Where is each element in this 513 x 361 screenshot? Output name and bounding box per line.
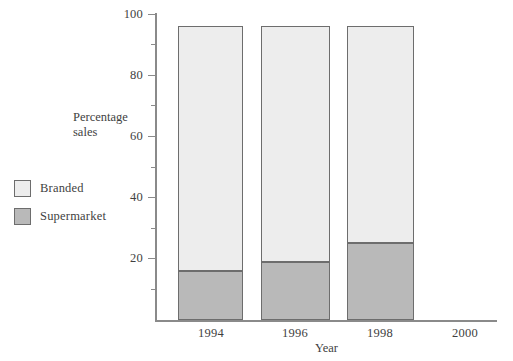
x-tick-label-2000: 2000 (434, 326, 496, 341)
legend-item-supermarket: Supermarket (14, 208, 106, 225)
y-axis-title-line2: sales (73, 125, 128, 140)
y-tick-40 (148, 197, 155, 198)
x-axis-line (155, 320, 497, 322)
bar-1998-segment-supermarket (347, 243, 414, 320)
y-tick-20 (148, 258, 155, 259)
y-minor-tick-10 (151, 289, 155, 290)
bar-chart: 100 80 60 40 20 Percentage sales 1994 19… (0, 0, 513, 361)
x-tick-label-1998: 1998 (349, 326, 411, 341)
bar-1994-segment-branded (178, 26, 243, 271)
bar-1998 (347, 26, 414, 320)
legend-swatch-branded (14, 180, 31, 197)
bar-1996-segment-branded (261, 26, 330, 262)
y-minor-tick-50 (151, 167, 155, 168)
y-axis-title: Percentage sales (73, 110, 128, 140)
y-tick-label-20: 20 (101, 251, 143, 266)
legend-item-branded: Branded (14, 180, 84, 197)
bar-1996-segment-supermarket (261, 262, 330, 320)
bar-1996 (261, 26, 330, 320)
legend-label-supermarket: Supermarket (40, 209, 106, 224)
y-tick-100 (148, 14, 155, 15)
legend: Branded Supermarket (14, 180, 134, 230)
y-tick-60 (148, 136, 155, 137)
x-tick-label-1994: 1994 (180, 326, 242, 341)
legend-label-branded: Branded (40, 181, 84, 196)
x-tick-label-1996: 1996 (264, 326, 326, 341)
y-minor-tick-90 (151, 44, 155, 45)
bar-1994 (178, 26, 243, 320)
bar-1998-segment-branded (347, 26, 414, 243)
y-minor-tick-70 (151, 105, 155, 106)
y-tick-80 (148, 75, 155, 76)
x-axis-title: Year (315, 341, 338, 356)
y-tick-label-100: 100 (101, 7, 143, 22)
y-tick-label-80: 80 (101, 68, 143, 83)
y-axis-title-line1: Percentage (73, 110, 128, 125)
legend-swatch-supermarket (14, 208, 31, 225)
bar-1994-segment-supermarket (178, 271, 243, 320)
y-axis-line (155, 13, 157, 321)
y-minor-tick-30 (151, 228, 155, 229)
